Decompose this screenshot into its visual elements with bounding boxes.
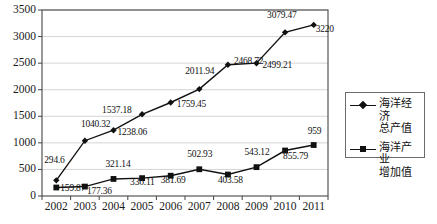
legend-label: 海洋产业 增加值 — [379, 142, 420, 180]
data-label: 2011.94 — [185, 66, 214, 76]
data-point-marker — [196, 166, 202, 172]
legend-item-1[interactable]: 海洋经济 总产值 — [350, 98, 420, 136]
data-point-marker — [254, 164, 260, 170]
data-label: 1238.06 — [118, 127, 147, 137]
data-point-marker — [168, 99, 174, 105]
data-label: 502.93 — [187, 149, 212, 159]
data-label: 321.14 — [106, 159, 131, 169]
y-axis-label: 1000 — [0, 136, 36, 148]
y-axis-label: 500 — [0, 162, 36, 174]
legend-label: 海洋经济 总产值 — [379, 98, 420, 136]
y-axis-label: 2500 — [0, 56, 36, 68]
data-label: 177.36 — [87, 186, 112, 196]
legend-item-2[interactable]: 海洋产业 增加值 — [350, 142, 420, 180]
data-label: 2468.72 — [234, 56, 263, 66]
data-point-marker — [53, 185, 59, 191]
data-point-marker — [111, 176, 117, 182]
data-label: 543.12 — [245, 147, 270, 157]
data-label: 294.6 — [44, 155, 64, 165]
legend-square-marker-icon — [350, 143, 376, 156]
y-axis-label: 0 — [0, 189, 36, 201]
data-label: 159.87 — [60, 183, 85, 193]
y-axis-label: 3000 — [0, 30, 36, 42]
data-label: 959 — [308, 126, 322, 136]
data-label: 855.79 — [283, 151, 308, 161]
y-axis-label: 2000 — [0, 83, 36, 95]
legend-diamond-marker-icon — [350, 99, 376, 112]
data-label: 336.11 — [130, 177, 155, 187]
data-point-marker — [110, 127, 116, 133]
y-axis-label: 3500 — [0, 3, 36, 15]
data-label: 381.69 — [161, 175, 186, 185]
data-label: 1040.32 — [81, 119, 110, 129]
data-label: 3079.47 — [267, 10, 296, 20]
data-label: 2499.21 — [263, 60, 292, 70]
data-label: 1759.45 — [177, 99, 206, 109]
data-label: 3220 — [316, 24, 334, 34]
x-axis-label: 2011 — [294, 200, 334, 212]
chart-container: 0500100015002000250030003500200220032004… — [0, 0, 437, 224]
data-label: 1537.18 — [102, 105, 131, 115]
y-axis-label: 1500 — [0, 109, 36, 121]
chart-legend: 海洋经济 总产值海洋产业 增加值 — [345, 92, 425, 158]
data-label: 403.58 — [218, 175, 243, 185]
data-point-marker — [311, 142, 317, 148]
